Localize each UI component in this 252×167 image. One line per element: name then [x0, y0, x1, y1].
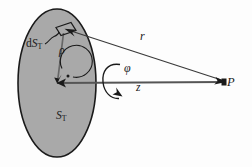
- z-axis-line: [57, 82, 224, 83]
- label-disc: ST: [56, 110, 67, 123]
- diagram-canvas: dST ρ r φ z ST P: [0, 0, 252, 167]
- label-phi: φ: [124, 62, 131, 74]
- label-surface-element: dST: [26, 38, 42, 51]
- label-r: r: [140, 30, 145, 42]
- diagram-svg: [0, 0, 252, 167]
- label-st-sub: T: [62, 114, 67, 123]
- label-z-axis: z: [136, 82, 140, 94]
- center-dot: [67, 75, 70, 78]
- label-field-point: P: [227, 76, 235, 89]
- label-rho: ρ: [59, 44, 65, 56]
- phi-rotation-arrowhead: [113, 87, 123, 96]
- field-point-marker: [222, 79, 227, 86]
- label-dst-sub: T: [38, 42, 43, 51]
